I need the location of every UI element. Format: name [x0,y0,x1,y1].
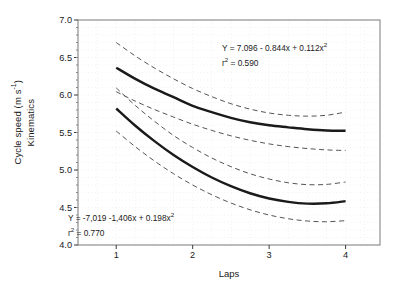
x-axis-title: Laps [78,268,380,279]
x-tick-label: 4 [336,250,356,260]
x-tick-label: 3 [259,250,279,260]
annotation-upper-equation: Y = 7.096 - 0.844x + 0.112x2 r2 = 0.590 [222,39,327,70]
annotation-lower-equation: Y = -7,019 -1,406x + 0.198x2 r2 = 0.770 [68,209,174,240]
chart-figure: Cycle speed (m s-1) Kinematics 4.04.55.0… [0,0,396,290]
annotation-upper-equation-line: Y = 7.096 - 0.844x + 0.112x2 [222,39,327,54]
plot-area [0,0,396,290]
annotation-lower-equation-line: Y = -7,019 -1,406x + 0.198x2 [68,209,174,224]
annotation-lower-rsquared-line: r2 = 0.770 [68,224,174,239]
x-tick-label: 1 [106,250,126,260]
annotation-upper-rsquared-line: r2 = 0.590 [222,54,327,69]
x-tick-label: 2 [183,250,203,260]
